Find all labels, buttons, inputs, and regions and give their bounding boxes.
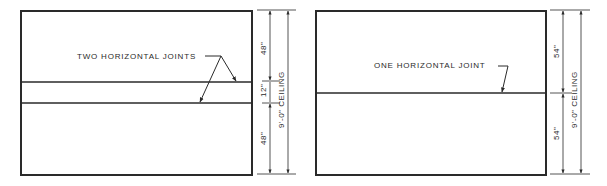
callout-arrow-lower	[200, 56, 221, 102]
figure-two-joints: TWO HORIZONTAL JOINTS 48" 12" 48" 9'-0" …	[21, 10, 296, 175]
callout-two-joints: TWO HORIZONTAL JOINTS	[77, 52, 196, 61]
dimension-bottom: 48"	[259, 132, 268, 145]
dimension-top: 54"	[552, 45, 561, 58]
callout-arrow	[502, 66, 508, 92]
wall-outline	[21, 11, 252, 175]
callout-arrow-upper	[221, 56, 236, 81]
dimension-overall: 9'-0" CEILING	[570, 71, 579, 128]
wall-joint-diagram: TWO HORIZONTAL JOINTS 48" 12" 48" 9'-0" …	[0, 0, 607, 186]
dimension-middle: 12"	[259, 84, 268, 97]
callout-one-joint: ONE HORIZONTAL JOINT	[374, 61, 486, 70]
dimension-bottom: 54"	[552, 127, 561, 140]
dimension-overall: 9'-0" CEILING	[277, 71, 286, 128]
figure-one-joint: ONE HORIZONTAL JOINT 54" 54" 9'-0" CEILI…	[316, 10, 590, 175]
dimension-top: 48"	[259, 42, 268, 55]
